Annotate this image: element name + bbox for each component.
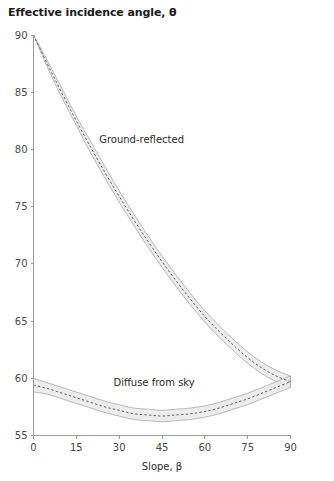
x-axis-label: Slope, β [142, 461, 182, 472]
series-bands-group [34, 35, 291, 422]
chart-figure: Effective incidence angle, θ 55606570758… [0, 0, 334, 481]
y-tick-label: 85 [15, 87, 28, 98]
y-tick-label: 65 [15, 316, 28, 327]
x-tick-label: 90 [284, 442, 297, 453]
x-tick-label: 75 [241, 442, 254, 453]
y-tick-label: 55 [15, 430, 28, 441]
curve-annotation-2: Diffuse from sky [113, 377, 194, 388]
y-ticks-group: 5560657075808590 [15, 30, 34, 442]
x-ticks-group: 0153045607590 [30, 436, 297, 453]
x-tick-label: 60 [198, 442, 211, 453]
chart-plot-area: 5560657075808590 0153045607590 Ground-re… [0, 0, 334, 481]
y-tick-label: 75 [15, 201, 28, 212]
x-tick-label: 0 [30, 442, 36, 453]
series-line-1 [34, 35, 291, 382]
y-tick-label: 70 [15, 258, 28, 269]
x-tick-label: 15 [70, 442, 83, 453]
y-tick-label: 80 [15, 144, 28, 155]
uncertainty-band-1 [34, 35, 291, 387]
x-tick-label: 45 [156, 442, 169, 453]
curve-annotation-1: Ground-reflected [99, 134, 184, 145]
y-tick-label: 90 [15, 30, 28, 41]
x-tick-label: 30 [113, 442, 126, 453]
curve-annotations-group: Ground-reflectedDiffuse from sky [99, 134, 195, 389]
y-tick-label: 60 [15, 373, 28, 384]
